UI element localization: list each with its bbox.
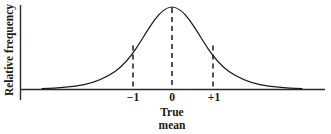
y-axis-label: Relative frequency [0,0,18,100]
x-axis-label-line-1: True [159,106,186,119]
y-axis-label-text: Relative frequency [3,4,15,96]
x-tick-label-zero: 0 [169,91,175,103]
x-axis-label: True mean [159,106,186,131]
x-axis-label-line-2: mean [159,119,186,132]
normal-distribution-figure: Relative frequency −1 0 +1 True mean [0,0,331,134]
x-tick-label-plus-1: +1 [208,91,220,103]
x-tick-label-minus-1: −1 [127,91,139,103]
